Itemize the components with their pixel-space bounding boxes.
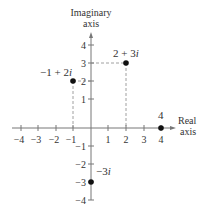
y-tick-label: 4	[81, 40, 86, 51]
point-label-neg1-plus-2i: −1 + 2i	[40, 66, 72, 78]
x-tick-label: 1	[106, 134, 111, 145]
x-axis-arrow-icon	[170, 126, 176, 130]
y-tick-label: 2	[81, 76, 86, 87]
x-tick-label: 3	[142, 134, 147, 145]
y-axis-arrow-icon	[89, 32, 93, 38]
point-4	[158, 125, 164, 131]
x-axis-label-line2: axis	[180, 126, 196, 137]
x-tick-labels: −4 −3 −2 −1 1 2 3 4	[14, 134, 164, 145]
point-neg1-plus-2i	[70, 78, 76, 84]
point-label-neg-3i: −3i	[96, 165, 111, 177]
point-label-4: 4	[158, 109, 164, 121]
x-tick-label: −3	[31, 134, 42, 145]
y-tick-label: −3	[75, 177, 86, 188]
y-tick-label: −1	[75, 141, 86, 152]
y-axis-label-line1: Imaginary	[70, 7, 111, 18]
y-tick-label: 1	[81, 94, 86, 105]
y-tick-label: −2	[75, 159, 86, 170]
y-tick-labels: 4 3 2 1 −1 −2 −3 −4	[75, 40, 86, 206]
y-tick-label: −4	[75, 195, 86, 206]
x-tick-label: 2	[124, 134, 129, 145]
x-tick-label: 4	[159, 134, 164, 145]
x-axis-label-line1: Real	[178, 115, 197, 126]
complex-plane-chart: −4 −3 −2 −1 1 2 3 4 4 3 2 1 −1 −2 −3 −4 …	[0, 0, 205, 211]
x-tick-label: −4	[14, 134, 25, 145]
point-2-plus-3i	[123, 60, 129, 66]
y-axis-label-line2: axis	[83, 18, 99, 29]
y-tick-label: 3	[81, 58, 86, 69]
point-neg-3i	[88, 179, 94, 185]
x-tick-label: −2	[49, 134, 60, 145]
point-label-2-plus-3i: 2 + 3i	[113, 47, 139, 59]
